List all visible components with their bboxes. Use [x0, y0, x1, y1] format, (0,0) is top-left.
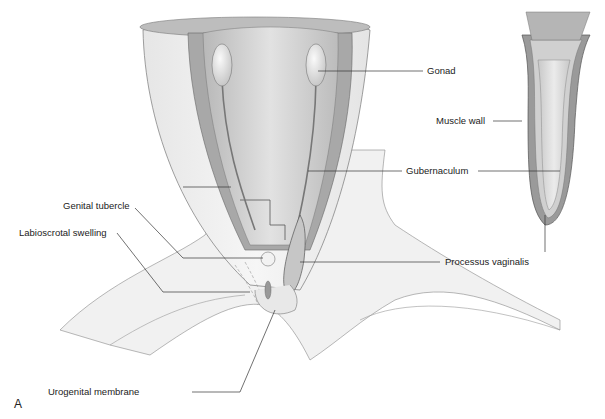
- label-muscle-wall: Muscle wall: [436, 115, 485, 126]
- panel-label: A: [14, 397, 22, 411]
- urogenital-membrane: [265, 281, 271, 299]
- label-genital-tubercle: Genital tubercle: [63, 200, 130, 211]
- inset-processus-vaginalis: [522, 12, 590, 225]
- gonad-left: [212, 44, 232, 86]
- label-urogenital-membrane: Urogenital membrane: [48, 386, 139, 397]
- label-processus-vaginalis: Processus vaginalis: [445, 256, 529, 267]
- label-gubernaculum: Gubernaculum: [406, 165, 468, 176]
- genital-tubercle: [261, 252, 275, 266]
- label-gonad: Gonad: [427, 65, 456, 76]
- gonad-right: [306, 44, 326, 86]
- label-labioscrotal-swelling: Labioscrotal swelling: [19, 227, 107, 238]
